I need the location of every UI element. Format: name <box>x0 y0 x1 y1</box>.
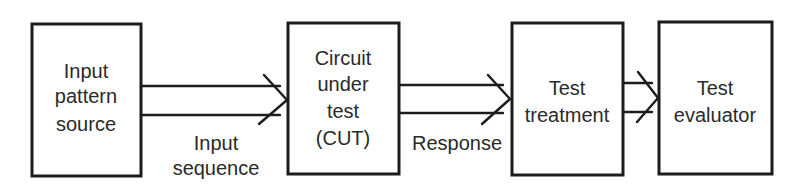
block-test-treatment: Test treatment <box>512 23 623 175</box>
block-label-line: under <box>317 73 368 95</box>
block-label-line: pattern <box>55 85 117 107</box>
arrow-head-icon <box>637 72 658 122</box>
block-label-line: Circuit <box>315 47 372 69</box>
block-circuit-under-test: Circuit under test (CUT) <box>288 23 399 174</box>
connection-label-line: sequence <box>173 157 260 179</box>
block-frame <box>512 23 623 175</box>
block-label-line: Input <box>64 60 109 82</box>
test-flow-diagram: Input pattern source Input sequence Circ… <box>0 0 804 188</box>
arrow-response: Response <box>399 75 510 154</box>
block-frame <box>288 23 399 174</box>
block-label-line: test <box>327 100 360 122</box>
block-label-line: source <box>56 113 116 135</box>
connection-label-line: Response <box>412 132 502 154</box>
block-label-line: (CUT) <box>316 127 370 149</box>
block-label-line: Test <box>549 77 586 99</box>
arrow-head-icon <box>482 75 510 124</box>
block-label-line: treatment <box>525 104 610 126</box>
arrow-head-icon <box>259 75 287 124</box>
connection-label-line: Input <box>194 132 239 154</box>
arrow-input-sequence: Input sequence <box>141 75 287 179</box>
arrow-treatment-to-evaluator <box>623 72 658 122</box>
block-label-line: evaluator <box>674 104 757 126</box>
block-input-pattern-source: Input pattern source <box>32 24 141 176</box>
block-label-line: Test <box>697 77 734 99</box>
block-test-evaluator: Test evaluator <box>659 22 772 174</box>
